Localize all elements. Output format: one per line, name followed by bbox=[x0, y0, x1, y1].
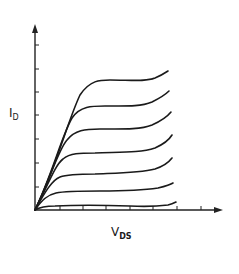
curve-4 bbox=[35, 135, 172, 210]
x-axis-label: VDS bbox=[111, 225, 132, 241]
y-axis bbox=[32, 24, 39, 210]
curves bbox=[35, 71, 176, 210]
x-axis bbox=[35, 206, 223, 213]
x-axis-arrow-icon bbox=[214, 207, 223, 213]
y-axis-label: ID bbox=[9, 106, 19, 122]
mosfet-characteristic-chart: ID VDS bbox=[0, 0, 239, 274]
y-axis-arrow-icon bbox=[32, 24, 38, 33]
curve-3 bbox=[35, 112, 171, 210]
curve-2 bbox=[35, 91, 169, 210]
curve-5 bbox=[35, 158, 172, 210]
